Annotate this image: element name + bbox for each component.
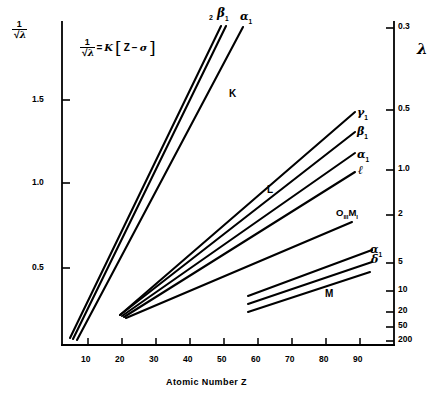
label-m-delta: δ — [371, 254, 378, 265]
label-k-beta1-sub: 1 — [225, 15, 229, 22]
right-tick-10: 10 — [398, 285, 407, 294]
left-tick-1-0: 1.0 — [32, 178, 44, 187]
line-k-beta2 — [70, 26, 221, 338]
label-l-gamma1: γ1 — [357, 103, 368, 122]
line-k-alpha1 — [77, 27, 243, 340]
equation-z: Z — [124, 43, 130, 53]
moseley-equation: 1 λ = K [ Z − σ ] — [80, 38, 156, 59]
label-o3-m1-m-sub: I — [356, 214, 358, 220]
right-tick-20: 20 — [398, 306, 407, 315]
label-l-alpha1: α1 — [357, 145, 369, 164]
equation-equals: = — [97, 43, 103, 53]
equation-bracket-open: [ — [115, 40, 122, 57]
right-axis-ticks — [386, 28, 394, 341]
label-k-beta1: β1 — [217, 4, 229, 23]
x-tick-80: 80 — [319, 355, 328, 364]
line-m-alpha1 — [248, 250, 372, 296]
label-k-beta1-glyph: β — [217, 6, 225, 20]
equation-minus: − — [132, 43, 138, 53]
right-tick-200: 200 — [398, 335, 412, 344]
x-tick-40: 40 — [183, 355, 192, 364]
left-axis-title: 1 λ — [12, 20, 27, 41]
label-series-k: K — [229, 89, 236, 99]
right-tick-2: 2 — [398, 209, 403, 218]
plot-canvas — [0, 0, 440, 401]
label-l-beta1: β1 — [357, 122, 368, 141]
line-m-third — [248, 272, 370, 312]
label-o3-m1: OIIIMI — [336, 208, 358, 220]
left-axis-ticks — [62, 100, 70, 268]
bottom-axis-ticks — [88, 338, 360, 345]
x-tick-60: 60 — [251, 355, 260, 364]
label-l-gamma1-sub: 1 — [364, 114, 368, 121]
equation-bracket-close: ] — [149, 40, 156, 57]
label-series-l: L — [267, 185, 273, 195]
equation-sigma: σ — [140, 43, 147, 53]
left-tick-1-5: 1.5 — [32, 95, 44, 104]
right-tick-1-0: 1.0 — [398, 164, 410, 173]
left-tick-0-5: 0.5 — [32, 263, 44, 272]
label-l-ell: ℓ — [358, 164, 363, 176]
x-tick-20: 20 — [115, 355, 124, 364]
label-l-beta1-sub: 1 — [364, 133, 368, 140]
line-l-gamma1 — [120, 112, 355, 315]
line-m-delta — [248, 262, 372, 304]
x-tick-70: 70 — [285, 355, 294, 364]
label-k-alpha1: α1 — [240, 7, 252, 26]
line-l-ell — [124, 172, 355, 317]
series-l-lines — [120, 112, 355, 318]
right-tick-0-5: 0.5 — [398, 104, 410, 113]
right-tick-5: 5 — [398, 257, 403, 266]
right-tick-0-3: 0.3 — [398, 22, 410, 31]
equation-k: K — [104, 43, 113, 53]
chart-figure: 1 λ 1.5 1.0 0.5 1 λ = K [ Z − σ ] 2 β1 α… — [0, 0, 440, 401]
equation-denominator: λ — [88, 47, 95, 58]
label-m-alpha1-sub: 1 — [378, 251, 382, 258]
right-axis-title: λ — [417, 42, 428, 57]
left-axis-title-denominator: λ — [20, 29, 27, 40]
label-l-alpha1-sub: 1 — [365, 156, 369, 163]
x-tick-50: 50 — [217, 355, 226, 364]
x-axis-title: Atomic Number Z — [166, 378, 247, 387]
right-tick-50: 50 — [398, 321, 407, 330]
label-k-alpha1-sub: 1 — [248, 18, 252, 25]
label-k-beta2: 2 — [209, 14, 213, 21]
x-tick-10: 10 — [81, 355, 90, 364]
x-tick-30: 30 — [149, 355, 158, 364]
label-series-m: M — [325, 289, 333, 299]
x-tick-90: 90 — [353, 355, 362, 364]
